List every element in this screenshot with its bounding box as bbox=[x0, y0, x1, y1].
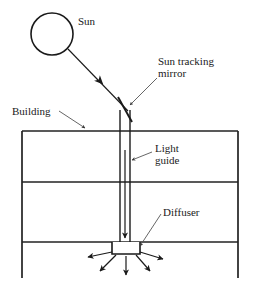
sun-ray-arrowhead bbox=[94, 75, 106, 87]
building-leader-line bbox=[59, 111, 85, 128]
diffuser-ray-right bbox=[136, 255, 150, 271]
diffuser-ray-far-right bbox=[140, 252, 163, 259]
diffuser-label: Diffuser bbox=[163, 206, 199, 218]
light-guide-label-line-2: guide bbox=[155, 154, 179, 166]
sun-circle bbox=[31, 13, 73, 55]
diffuser-box bbox=[112, 242, 140, 254]
mirror-leader-line bbox=[130, 78, 157, 105]
diffuser-ray-far-left bbox=[88, 252, 112, 257]
light-guide-label: Lightguide bbox=[155, 142, 179, 166]
sun-label: Sun bbox=[78, 15, 95, 27]
diffuser-ray-left bbox=[100, 255, 116, 271]
building-label: Building bbox=[12, 105, 51, 117]
sun-tracking-mirror-diagram: Sun Sun trackingmirror Building Lightgui… bbox=[0, 0, 253, 284]
diffuser-leader-line bbox=[140, 214, 161, 246]
mirror-label-line-1: Sun tracking bbox=[158, 55, 214, 67]
light-guide-label-line-1: Light bbox=[155, 142, 179, 154]
mirror-label-line-2: mirror bbox=[158, 67, 186, 79]
diagram-canvas bbox=[0, 0, 253, 284]
sun-tracking-mirror-label: Sun trackingmirror bbox=[158, 55, 214, 79]
light-guide-leader-line bbox=[132, 152, 152, 160]
